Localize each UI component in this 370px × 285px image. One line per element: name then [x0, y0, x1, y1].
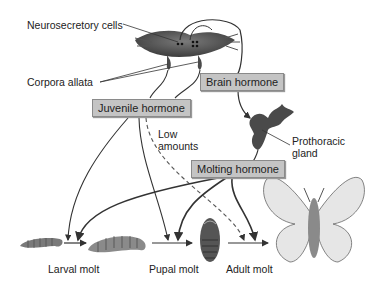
moth-icon — [264, 177, 365, 262]
juvenile-hormone-box: Juvenile hormone — [92, 99, 191, 117]
neurosecretory-cells-label: Neurosecretory cells — [27, 19, 123, 31]
large-larva-icon — [88, 236, 146, 252]
adult-molt-label: Adult molt — [226, 263, 273, 275]
corpora-allata-label: Corpora allata — [27, 76, 93, 88]
low-amounts-label-line1: Low — [158, 128, 177, 140]
prothoracic-gland-label-line2: gland — [292, 147, 318, 159]
brain-hormone-box: Brain hormone — [200, 73, 284, 91]
small-larva-icon — [20, 238, 63, 248]
low-amounts-label-line2: amounts — [158, 140, 198, 152]
larval-molt-label: Larval molt — [48, 263, 99, 275]
molting-hormone-box: Molting hormone — [191, 160, 285, 178]
pupal-molt-label: Pupal molt — [149, 263, 199, 275]
pupa-icon — [200, 218, 220, 262]
insect-hormone-diagram: Neurosecretory cells Corpora allata Brai… — [0, 0, 370, 285]
prothoracic-gland-icon — [249, 104, 294, 150]
prothoracic-gland-label-line1: Prothoracic — [292, 135, 345, 147]
